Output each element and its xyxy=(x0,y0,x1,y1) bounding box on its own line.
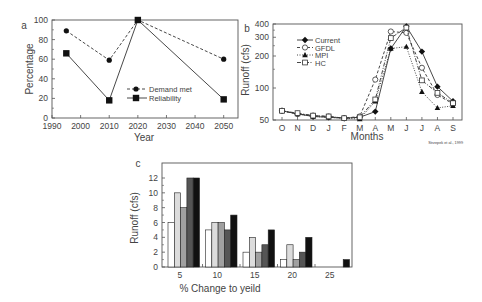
data-point xyxy=(373,97,378,102)
bar xyxy=(306,237,312,267)
data-point xyxy=(63,50,69,56)
x-tick-label: J xyxy=(420,123,424,133)
y-tick-label: 100 xyxy=(34,15,48,25)
y-tick-label: 2 xyxy=(153,247,158,257)
bar xyxy=(206,230,212,267)
data-point xyxy=(326,114,331,119)
data-point xyxy=(106,97,112,103)
legend-marker xyxy=(302,45,307,50)
data-point xyxy=(295,111,300,116)
x-tick-label: S xyxy=(450,123,456,133)
x-tick-label: 15 xyxy=(250,270,260,280)
data-point xyxy=(342,116,347,121)
data-point xyxy=(420,78,425,83)
x-tick-label: N xyxy=(294,123,300,133)
plot-frame xyxy=(273,24,462,120)
y-tick-label: 40 xyxy=(39,74,49,84)
bar xyxy=(193,178,199,267)
y-tick-label: 10 xyxy=(149,188,159,198)
panel-label: a xyxy=(21,20,27,31)
bar xyxy=(231,215,237,267)
data-point xyxy=(220,96,226,102)
x-tick-label: J xyxy=(327,123,331,133)
data-point xyxy=(388,29,393,34)
bar xyxy=(218,223,224,268)
bar xyxy=(212,223,218,268)
bar xyxy=(256,252,262,267)
series-line-reliability xyxy=(66,20,223,100)
y-tick-label: 60 xyxy=(39,54,49,64)
y-axis-label: Percentage xyxy=(24,43,35,95)
x-tick-label: 2030 xyxy=(157,121,176,131)
data-point xyxy=(435,105,441,110)
y-tick-label: 100 xyxy=(255,83,269,93)
x-tick-label: 20 xyxy=(288,270,298,280)
bar xyxy=(287,245,293,267)
x-tick-label: 2010 xyxy=(100,121,119,131)
x-axis-label: % Change to yeild xyxy=(179,283,260,294)
figure-canvas: 0204060801001990200020102020203020402050… xyxy=(0,0,482,302)
bar xyxy=(268,230,274,267)
y-tick-label: 200 xyxy=(255,51,269,61)
bar xyxy=(299,252,305,267)
y-axis-label: Runoff (cfs) xyxy=(240,44,251,96)
y-tick-label: 0 xyxy=(153,262,158,272)
x-tick-label: M xyxy=(387,123,394,133)
legend-marker xyxy=(133,95,139,101)
data-point xyxy=(419,48,425,54)
y-tick-label: 4 xyxy=(153,232,158,242)
y-tick-label: 50 xyxy=(260,115,270,125)
data-point xyxy=(404,25,409,30)
series-line-gfdl xyxy=(282,32,453,119)
bar xyxy=(343,260,349,267)
panel-label: c xyxy=(136,158,141,169)
x-tick-label: 2020 xyxy=(128,121,147,131)
x-tick-label: 2050 xyxy=(214,121,233,131)
data-point xyxy=(435,90,440,95)
y-tick-label: 80 xyxy=(39,35,49,45)
x-tick-label: 10 xyxy=(213,270,223,280)
x-tick-label: O xyxy=(279,123,286,133)
data-point xyxy=(107,58,112,63)
x-tick-label: D xyxy=(310,123,316,133)
legend-label: Demand met xyxy=(149,85,193,94)
x-tick-label: 25 xyxy=(325,270,335,280)
citation: Strzepek et al., 1999 xyxy=(428,141,463,145)
x-tick-label: 1990 xyxy=(43,121,62,131)
data-point xyxy=(311,113,316,118)
data-point xyxy=(372,108,378,114)
legend-label: Reliability xyxy=(149,94,181,103)
bar xyxy=(249,237,255,267)
bar xyxy=(243,252,249,267)
x-tick-label: 2000 xyxy=(71,121,90,131)
x-tick-label: F xyxy=(342,123,347,133)
data-point xyxy=(135,17,141,23)
data-point xyxy=(357,115,362,120)
data-point xyxy=(419,65,424,70)
y-tick-label: 12 xyxy=(149,173,159,183)
data-point xyxy=(221,57,226,62)
bar xyxy=(181,208,187,267)
legend-marker xyxy=(302,52,308,57)
y-tick-label: 400 xyxy=(255,19,269,29)
y-tick-label: 8 xyxy=(153,203,158,213)
chart-a: 0204060801001990200020102020203020402050… xyxy=(21,15,238,143)
x-axis-label: Year xyxy=(134,132,155,143)
panel-label: b xyxy=(244,23,250,34)
legend-marker xyxy=(302,37,308,43)
x-tick-label: 5 xyxy=(177,270,182,280)
x-tick-label: A xyxy=(435,123,441,133)
legend-marker xyxy=(303,60,308,65)
bar xyxy=(224,230,230,267)
bar xyxy=(281,260,287,267)
bar xyxy=(262,245,268,267)
data-point xyxy=(280,108,285,113)
chart-c: 024681012510152025% Change to yeildRunof… xyxy=(129,158,352,294)
data-point xyxy=(388,36,393,41)
y-axis-label: Runoff (cfs) xyxy=(129,192,140,244)
data-point xyxy=(64,28,69,33)
y-tick-label: 300 xyxy=(255,32,269,42)
x-axis-label: Months xyxy=(351,131,384,142)
data-point xyxy=(419,89,425,94)
legend-label: HC xyxy=(315,59,326,68)
